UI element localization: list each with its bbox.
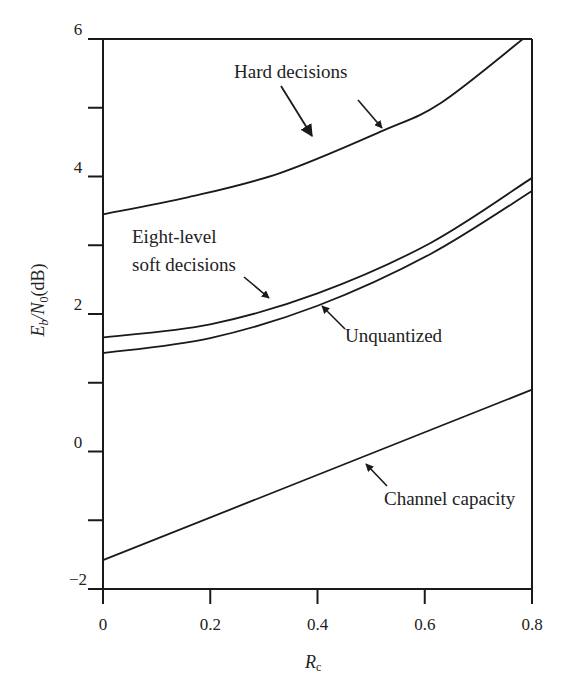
arrow-icon xyxy=(244,277,269,298)
annotation-eight-level-line1: Eight-level xyxy=(132,226,216,247)
x-tick-label: 0.6 xyxy=(414,615,435,634)
arrow-icon xyxy=(322,306,345,329)
svg-text:Rc: Rc xyxy=(304,652,321,674)
y-axis-title: Eb/N0(dB) xyxy=(28,263,51,337)
curve-channel-capacity xyxy=(103,390,532,561)
annotation-eight-level-line2: soft decisions xyxy=(132,254,236,275)
annotations: Hard decisions Eight-level soft decision… xyxy=(132,61,516,509)
annotation-channel-capacity: Channel capacity xyxy=(384,488,516,509)
x-axis-ticks: 00.20.40.60.8 xyxy=(99,589,543,634)
chart-svg: −20246 00.20.40.60.8 Hard decisions Eigh… xyxy=(0,0,569,697)
x-tick-label: 0.4 xyxy=(307,615,329,634)
x-tick-label: 0.2 xyxy=(200,615,221,634)
svg-text:Eb/N0(dB): Eb/N0(dB) xyxy=(28,263,51,337)
y-tick-label: −2 xyxy=(69,570,87,589)
y-axis-ticks: −20246 xyxy=(69,20,103,589)
annotation-hard-decisions: Hard decisions xyxy=(234,61,347,82)
arrow-icon xyxy=(281,86,312,136)
data-curves xyxy=(103,39,532,560)
y-tick-label: 0 xyxy=(74,433,83,452)
y-tick-label: 2 xyxy=(74,295,83,314)
arrow-icon xyxy=(358,100,382,128)
annotation-unquantized: Unquantized xyxy=(345,325,443,346)
x-tick-label: 0.8 xyxy=(521,615,542,634)
y-tick-label: 6 xyxy=(74,20,83,39)
x-tick-label: 0 xyxy=(99,615,108,634)
arrow-icon xyxy=(366,464,387,486)
y-tick-label: 4 xyxy=(74,158,83,177)
x-axis-title: Rc xyxy=(304,652,321,674)
